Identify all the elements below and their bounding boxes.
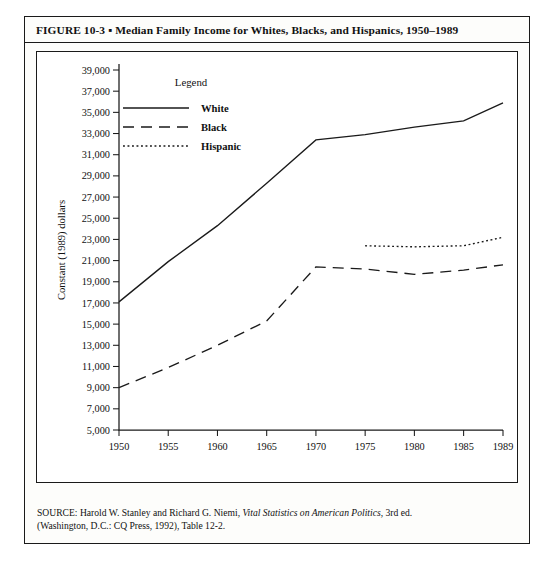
figure-title-bar: FIGURE 10-3 ▪ Median Family Income for W…: [25, 17, 529, 43]
x-axis-tick-label: 1950: [109, 441, 130, 452]
source-line-2: (Washington, D.C.: CQ Press, 1992), Tabl…: [37, 519, 517, 533]
x-axis-tick-label: 1975: [355, 441, 376, 452]
source-note: SOURCE: Harold W. Stanley and Richard G.…: [37, 506, 517, 533]
y-axis-tick-label: 19,000: [82, 276, 110, 287]
y-axis-tick-label: 37,000: [82, 86, 110, 97]
figure-card: FIGURE 10-3 ▪ Median Family Income for W…: [24, 16, 530, 544]
x-axis-tick-label: 1970: [306, 441, 327, 452]
legend-label-black: Black: [201, 122, 227, 133]
y-axis-tick-label: 17,000: [82, 298, 110, 309]
source-edition: , 3rd ed.: [381, 507, 412, 518]
y-axis-tick-label: 39,000: [82, 65, 110, 76]
y-axis-tick-label: 7,000: [87, 403, 110, 414]
source-prefix: SOURCE: Harold W. Stanley and Richard G.…: [37, 507, 242, 518]
y-axis-tick-label: 33,000: [82, 128, 110, 139]
plot-frame: 5,0007,0009,00011,00013,00015,00017,0001…: [36, 51, 518, 483]
source-line-1: SOURCE: Harold W. Stanley and Richard G.…: [37, 506, 517, 520]
series-line-black: [119, 265, 503, 388]
source-title-italic: Vital Statistics on American Politics: [242, 507, 380, 518]
page-title: FIGURE 10-3 ▪ Median Family Income for W…: [25, 24, 458, 36]
y-axis-tick-label: 9,000: [87, 382, 110, 393]
x-axis-tick-label: 1980: [404, 441, 425, 452]
legend-label-hispanic: Hispanic: [201, 141, 241, 152]
y-axis-tick-label: 27,000: [82, 192, 110, 203]
y-axis-tick-label: 35,000: [82, 107, 110, 118]
y-axis-tick-label: 23,000: [82, 234, 110, 245]
x-axis-tick-label: 1989: [493, 441, 514, 452]
y-axis-tick-label: 11,000: [82, 361, 110, 372]
x-axis-tick-label: 1960: [207, 441, 228, 452]
legend-title: Legend: [175, 76, 208, 88]
legend-label-white: White: [201, 103, 229, 114]
y-axis-tick-label: 15,000: [82, 319, 110, 330]
line-chart: 5,0007,0009,00011,00013,00015,00017,0001…: [37, 52, 517, 482]
y-axis-tick-label: 29,000: [82, 170, 110, 181]
y-axis-tick-label: 5,000: [87, 425, 110, 436]
y-axis-title: Constant (1989) dollars: [56, 200, 68, 300]
x-axis-tick-label: 1985: [453, 441, 474, 452]
y-axis-tick-label: 31,000: [82, 149, 110, 160]
x-axis-tick-label: 1955: [158, 441, 179, 452]
series-line-hispanic: [365, 237, 503, 247]
x-axis-tick-label: 1965: [256, 441, 277, 452]
y-axis-tick-label: 13,000: [82, 340, 110, 351]
chart-axes: [119, 64, 503, 430]
y-axis-tick-label: 25,000: [82, 213, 110, 224]
y-axis-tick-label: 21,000: [82, 255, 110, 266]
